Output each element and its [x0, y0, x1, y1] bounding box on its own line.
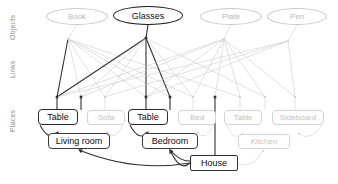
object-node-label: Book: [68, 12, 86, 21]
edge-hub-anchor: [81, 39, 224, 97]
place-anchor-anchor-table-living[interactable]: [56, 96, 59, 99]
edges-anchor-to-place: [57, 97, 295, 110]
edge-hub-anchor: [105, 38, 146, 97]
edge-hub-anchor: [224, 39, 240, 97]
edge-room-root: [238, 150, 264, 165]
link-hub-hub-glasses[interactable]: [145, 37, 148, 40]
place-anchor-anchor-sideboard[interactable]: [264, 96, 266, 98]
edge-object-hub: [68, 25, 77, 39]
place-anchor-anchor-sofa[interactable]: [80, 96, 83, 99]
room-node-bedroom[interactable]: Bedroom: [142, 133, 198, 149]
tier-label-objects: Objects: [9, 15, 16, 40]
place-node-table-kitchen[interactable]: Table: [224, 110, 262, 125]
room-node-living-room[interactable]: Living room: [48, 133, 110, 149]
edge-object-hub: [146, 25, 148, 38]
root-node-label: House: [201, 158, 227, 168]
place-anchor-anchor-table-bedroom[interactable]: [145, 96, 148, 99]
edge-hub-anchor: [146, 41, 288, 97]
edge-place-room: [298, 125, 322, 137]
edges-hub-to-anchor: [57, 38, 295, 97]
place-node-table-bedroom[interactable]: Table: [128, 109, 168, 125]
place-anchor-anchor-bed-2[interactable]: [192, 96, 194, 98]
diagram-canvas: Objects Links Places BookGlassesPlatePen…: [0, 0, 338, 184]
place-anchor-anchor-house-stem[interactable]: [214, 96, 217, 99]
root-node-house[interactable]: House: [190, 155, 238, 171]
object-node-label: Glasses: [132, 11, 165, 21]
place-anchor-anchor-bed[interactable]: [169, 96, 172, 99]
object-node-glasses[interactable]: Glasses: [113, 6, 183, 25]
place-node-label: Table: [47, 112, 69, 122]
object-node-pen[interactable]: Pen: [267, 8, 327, 25]
place-node-sideboard[interactable]: Sideboard: [272, 110, 324, 125]
edge-place-room: [197, 125, 214, 136]
object-node-plate[interactable]: Plate: [200, 8, 262, 25]
place-anchor-anchor-sideboard-2[interactable]: [294, 96, 296, 98]
object-node-label: Pen: [290, 12, 304, 21]
edge-hub-anchor: [57, 41, 288, 97]
place-node-label: Sideboard: [280, 113, 316, 122]
place-node-label: Bed: [190, 113, 204, 122]
edge-hub-anchor: [57, 38, 146, 97]
edges-object-to-hub: [68, 25, 297, 41]
tier-label-places: Places: [9, 110, 16, 132]
room-node-kitchen[interactable]: Kitchen: [238, 134, 290, 149]
place-anchor-anchor-table-kitchen[interactable]: [239, 96, 241, 98]
edge-layer: [0, 0, 338, 184]
link-hub-hub-pen[interactable]: [287, 40, 289, 42]
place-node-label: Sofa: [98, 113, 114, 122]
place-node-label: Table: [233, 113, 252, 122]
edge-hub-anchor: [57, 39, 68, 97]
link-hub-hub-plate[interactable]: [223, 38, 225, 40]
edge-hub-anchor: [224, 39, 265, 97]
place-anchor-anchor-sofa-2[interactable]: [104, 96, 106, 98]
edge-object-hub: [288, 25, 297, 41]
room-node-label: Living room: [56, 136, 103, 146]
edge-hub-anchor: [288, 41, 295, 97]
room-node-label: Bedroom: [152, 136, 189, 146]
place-node-sofa[interactable]: Sofa: [87, 110, 125, 125]
object-node-book[interactable]: Book: [46, 8, 108, 25]
edge-object-hub: [224, 25, 231, 39]
object-node-label: Plate: [222, 12, 240, 21]
tier-label-links: Links: [9, 61, 16, 78]
place-node-table-living[interactable]: Table: [38, 109, 78, 125]
place-node-label: Table: [137, 112, 159, 122]
room-node-label: Kitchen: [251, 137, 278, 146]
place-node-bed[interactable]: Bed: [178, 110, 216, 125]
edge-room-root: [79, 150, 190, 166]
link-hub-hub-book[interactable]: [67, 38, 69, 40]
